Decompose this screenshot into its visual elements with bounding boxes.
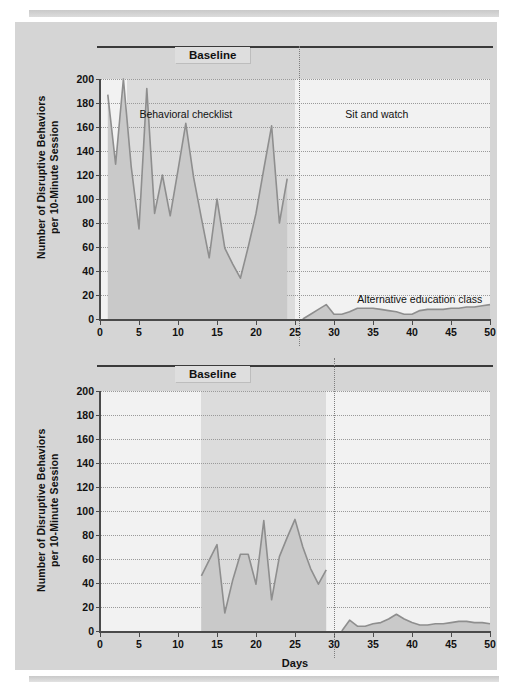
y-tick-label: 200: [76, 385, 94, 397]
x-axis-line-bottom: [99, 631, 491, 633]
x-tick-label: 15: [211, 326, 223, 338]
x-axis-title: Days: [100, 657, 490, 669]
series-area: [342, 614, 490, 631]
x-tick-label: 45: [445, 638, 457, 650]
data-series-bottom: [100, 391, 490, 631]
y-tick-label: 100: [76, 505, 94, 517]
phase-label-baseline-top: Baseline: [175, 47, 250, 63]
figure-page: Number of Disruptive Behaviors per 10-Mi…: [0, 0, 512, 694]
x-tick-label: 20: [250, 326, 262, 338]
panel-bottom-border: [97, 365, 493, 367]
chart-bottom-panel: Number of Disruptive Behaviors per 10-Mi…: [15, 344, 497, 670]
x-tick-label: 30: [328, 326, 340, 338]
y-axis-title-top: Number of Disruptive Behaviors per 10-Mi…: [35, 77, 61, 277]
y-tick-label: 160: [76, 433, 94, 445]
y-tick-label: 180: [76, 409, 94, 421]
x-tick-label: 20: [250, 638, 262, 650]
plot-area-bottom: 020406080100120140160180200 051015202530…: [100, 391, 490, 631]
x-tick-label: 0: [97, 638, 103, 650]
x-tick-label: 50: [484, 638, 496, 650]
y-tick-label: 80: [82, 217, 94, 229]
y-axis-line-top: [99, 79, 101, 319]
annotation-sit-and-watch: Sit and watch: [345, 108, 408, 120]
y-tick-label: 100: [76, 193, 94, 205]
x-axis-line-top: [99, 319, 491, 321]
x-tick-label: 35: [367, 638, 379, 650]
y-tick-label: 80: [82, 529, 94, 541]
y-tick-label: 160: [76, 121, 94, 133]
y-tick-label: 60: [82, 241, 94, 253]
x-tick-label: 15: [211, 638, 223, 650]
y-tick-label: 20: [82, 601, 94, 613]
y-tick-label: 180: [76, 97, 94, 109]
y-tick-label: 0: [88, 625, 94, 637]
x-tick-label: 10: [172, 638, 184, 650]
x-tick-label: 40: [406, 638, 418, 650]
x-tick-label: 45: [445, 326, 457, 338]
x-tick-label: 10: [172, 326, 184, 338]
figure-panel: Number of Disruptive Behaviors per 10-Mi…: [15, 22, 497, 670]
y-tick-label: 140: [76, 145, 94, 157]
y-tick-label: 140: [76, 457, 94, 469]
x-tick-label: 50: [484, 326, 496, 338]
decorative-rule-bottom: [29, 676, 499, 682]
y-tick-label: 40: [82, 265, 94, 277]
x-tick-label: 35: [367, 326, 379, 338]
annotation-alternative-education-class: Alternative education class: [357, 293, 482, 305]
annotation-behavioral-checklist: Behavioral checklist: [139, 108, 232, 120]
y-tick-label: 120: [76, 169, 94, 181]
x-tick-label: 25: [289, 638, 301, 650]
y-tick-label: 20: [82, 289, 94, 301]
y-tick-label: 0: [88, 313, 94, 325]
phase-label-baseline-bottom: Baseline: [175, 366, 250, 382]
y-tick-label: 40: [82, 577, 94, 589]
x-tick-label: 5: [136, 638, 142, 650]
panel-top-border: [97, 46, 493, 48]
y-axis-line-bottom: [99, 391, 101, 631]
x-tick-label: 0: [97, 326, 103, 338]
x-tick-label: 5: [136, 326, 142, 338]
decorative-rule-top: [29, 10, 499, 17]
y-tick-label: 200: [76, 73, 94, 85]
chart-top-panel: Number of Disruptive Behaviors per 10-Mi…: [15, 22, 497, 344]
x-tick-label: 40: [406, 326, 418, 338]
y-tick-label: 60: [82, 553, 94, 565]
y-axis-title-bottom: Number of Disruptive Behaviors per 10-Mi…: [35, 410, 61, 610]
y-tick-label: 120: [76, 481, 94, 493]
